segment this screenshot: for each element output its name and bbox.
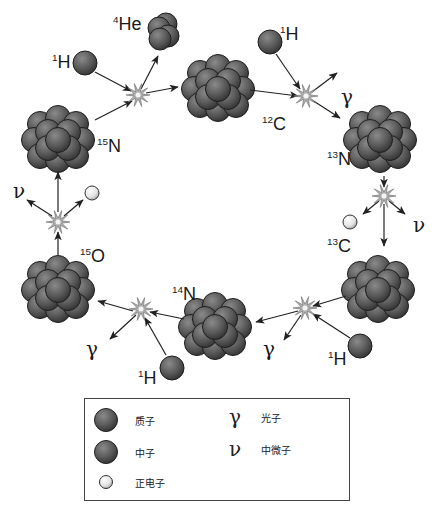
label-h1: 1H [328, 349, 347, 369]
label-h1: 1H [52, 52, 71, 72]
reaction-arrow [363, 201, 379, 214]
reaction-arrow [64, 200, 83, 216]
positron-particle [85, 186, 99, 200]
label-h1: 1H [138, 368, 157, 388]
label-n13: 13N [327, 149, 351, 169]
nucleus-n15 [22, 106, 95, 173]
reaction-arrow [145, 318, 166, 355]
gamma-symbol-icon: γ [221, 405, 249, 429]
reaction-arrow [256, 311, 298, 322]
legend-item-neutrino: ν 中微子 [221, 437, 291, 461]
nucleus-c13 [342, 256, 415, 323]
proton-particle [73, 51, 97, 75]
gamma-emission: γ [263, 337, 275, 361]
proton-particle [258, 30, 282, 54]
neutrino-symbol-icon: ν [221, 437, 249, 461]
label-n15: 15N [97, 136, 121, 156]
legend-item-gamma: γ 光子 [221, 405, 281, 429]
reaction-arrow [98, 301, 133, 311]
legend-item-neutron: 中子 [93, 439, 155, 465]
nucleus-c12 [182, 55, 255, 122]
reaction-arrow [110, 315, 136, 339]
label-h1: 1H [280, 24, 299, 44]
label-c13: 13C [327, 236, 351, 256]
reaction-arrow [27, 200, 52, 216]
reaction-arrow [389, 201, 405, 214]
reaction-arrow [250, 90, 298, 96]
reaction-arrow [313, 296, 346, 306]
label-c12: 12C [262, 114, 286, 134]
reaction-arrow [95, 72, 131, 91]
proton-particle [160, 356, 184, 380]
neutrino-emission: ν [413, 213, 425, 237]
reaction-burst-icon [129, 298, 153, 321]
reaction-arrow [284, 315, 301, 340]
label-o15: 15O [80, 246, 105, 266]
legend: 质子 中子 正电子 γ 光子 ν 中微子 [84, 398, 350, 501]
label-n14: 14N [172, 284, 196, 304]
legend-label-proton: 质子 [135, 413, 155, 428]
reaction-arrow [146, 87, 178, 93]
positron-swatch-icon [93, 473, 119, 491]
legend-item-proton: 质子 [93, 407, 155, 433]
reaction-burst-icon [126, 84, 150, 107]
helium-nucleus [148, 13, 179, 50]
label-he4: 4He [113, 14, 142, 34]
proton-swatch-icon [93, 407, 119, 433]
gamma-emission: γ [341, 85, 353, 109]
reaction-arrow [95, 101, 132, 120]
reaction-arrow [312, 100, 340, 118]
reaction-burst-icon [293, 297, 317, 320]
proton-particle [348, 334, 372, 358]
legend-label-neutrino: 中微子 [261, 442, 291, 457]
reaction-arrow [313, 314, 350, 338]
reaction-arrow [276, 54, 300, 89]
reaction-burst-icon [294, 85, 318, 108]
gamma-emission: γ [86, 337, 98, 361]
legend-label-gamma: 光子 [261, 410, 281, 425]
nucleus-o15 [22, 256, 95, 323]
reaction-arrow [141, 56, 158, 89]
neutrino-emission: ν [13, 179, 25, 203]
legend-label-positron: 正电子 [135, 475, 165, 490]
nucleus-n13 [344, 106, 417, 173]
positron-particle [343, 215, 357, 229]
neutron-swatch-icon [93, 439, 119, 465]
reaction-arrow [150, 312, 184, 319]
legend-item-positron: 正电子 [93, 473, 165, 491]
legend-label-neutron: 中子 [135, 445, 155, 460]
